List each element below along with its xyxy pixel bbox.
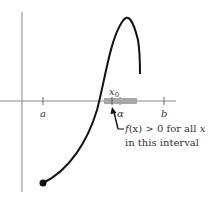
- positive-interval-band: [104, 98, 137, 104]
- label-x0: x0: [109, 86, 119, 99]
- curve-start-point: [40, 180, 47, 187]
- diagram-canvas: a α b x0 f(x) > 0 for all x in this inte…: [0, 0, 212, 197]
- label-alpha: α: [117, 108, 124, 119]
- label-b: b: [161, 108, 167, 119]
- annotation-arrow-head: [111, 107, 117, 114]
- annotation-line-2: in this interval: [125, 137, 199, 148]
- annotation-line-1: f(x) > 0 for all x: [124, 123, 206, 134]
- label-a: a: [40, 108, 46, 119]
